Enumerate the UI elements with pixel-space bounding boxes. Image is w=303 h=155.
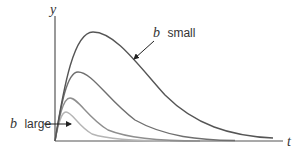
curve-b-large — [55, 112, 170, 141]
chart: y t b small b large — [0, 0, 303, 155]
x-axis-label: t — [287, 134, 292, 149]
annotation-b-small: b small — [153, 23, 195, 40]
annotation-b-large: b large — [10, 114, 51, 131]
curve-b-small — [55, 32, 273, 141]
arrow-b-small — [134, 41, 154, 59]
y-axis-label: y — [48, 2, 57, 17]
curve-b-medium-large — [55, 98, 200, 141]
